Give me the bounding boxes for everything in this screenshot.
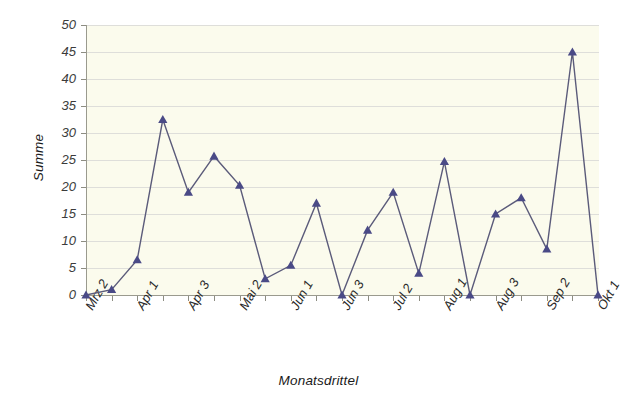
data-point-marker bbox=[286, 261, 295, 269]
x-tick-mark bbox=[521, 296, 522, 301]
x-axis-title: Monatsdrittel bbox=[0, 373, 637, 388]
data-point-marker bbox=[363, 226, 372, 234]
x-tick-mark bbox=[265, 296, 266, 301]
y-tick-label: 5 bbox=[40, 260, 76, 275]
x-tick-mark bbox=[419, 296, 420, 301]
x-tick-mark bbox=[572, 296, 573, 301]
data-series-layer bbox=[86, 25, 598, 296]
y-tick-label: 10 bbox=[40, 233, 76, 248]
line-chart: Summe 05101520253035404550 Mrz 2Apr 1Apr… bbox=[0, 0, 637, 410]
data-point-marker bbox=[209, 152, 218, 160]
data-point-marker bbox=[465, 290, 474, 298]
data-point-marker bbox=[517, 193, 526, 201]
x-tick-mark bbox=[214, 296, 215, 301]
x-tick-mark bbox=[163, 296, 164, 301]
y-tick-label: 40 bbox=[40, 71, 76, 86]
data-point-marker bbox=[261, 274, 270, 282]
data-point-marker bbox=[542, 245, 551, 253]
data-point-marker bbox=[568, 47, 577, 55]
x-tick-mark bbox=[316, 296, 317, 301]
series-line-summe bbox=[86, 52, 598, 295]
data-point-marker bbox=[491, 209, 500, 217]
series-markers-summe bbox=[81, 47, 602, 298]
y-tick-label: 30 bbox=[40, 125, 76, 140]
x-tick-mark bbox=[112, 296, 113, 301]
data-point-marker bbox=[312, 199, 321, 207]
y-tick-label: 35 bbox=[40, 98, 76, 113]
data-point-marker bbox=[414, 269, 423, 277]
y-tick-label: 50 bbox=[40, 17, 76, 32]
data-point-marker bbox=[158, 115, 167, 123]
data-point-marker bbox=[389, 188, 398, 196]
x-tick-mark bbox=[368, 296, 369, 301]
y-tick-label: 15 bbox=[40, 206, 76, 221]
y-tick-label: 0 bbox=[40, 287, 76, 302]
data-point-marker bbox=[337, 290, 346, 298]
y-tick-label: 25 bbox=[40, 152, 76, 167]
data-point-marker bbox=[440, 157, 449, 165]
y-tick-label: 45 bbox=[40, 44, 76, 59]
data-point-marker bbox=[133, 255, 142, 263]
y-tick-label: 20 bbox=[40, 179, 76, 194]
